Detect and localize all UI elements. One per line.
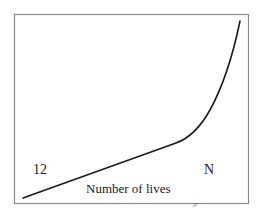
end-label: N xyxy=(204,162,214,177)
start-label: 12 xyxy=(33,162,47,177)
axis-break-mark: // xyxy=(192,201,198,209)
axis-label: Number of lives xyxy=(86,181,170,196)
diagram-canvas: 12 N Number of lives // xyxy=(0,0,259,215)
